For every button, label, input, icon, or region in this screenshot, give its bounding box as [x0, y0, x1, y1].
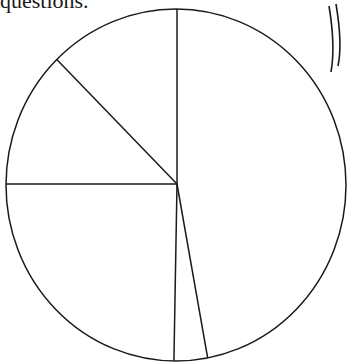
margin-mark [329, 6, 333, 72]
pie-slice-dividers [6, 9, 208, 361]
slice-divider [174, 184, 177, 361]
slice-divider [177, 184, 208, 358]
pie-outline [6, 9, 346, 361]
slice-divider [57, 60, 177, 184]
margin-mark [336, 4, 340, 66]
pie-chart [0, 0, 355, 364]
